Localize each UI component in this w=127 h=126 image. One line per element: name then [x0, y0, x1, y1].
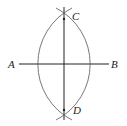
- label-d: D: [72, 104, 81, 116]
- label-a: A: [7, 58, 15, 70]
- diagram-canvas: A B C D: [0, 0, 127, 126]
- label-c: C: [72, 10, 80, 22]
- point-d: [63, 109, 65, 111]
- construction-figure: A B C D: [0, 0, 127, 126]
- label-b: B: [111, 58, 118, 70]
- point-c: [63, 18, 65, 20]
